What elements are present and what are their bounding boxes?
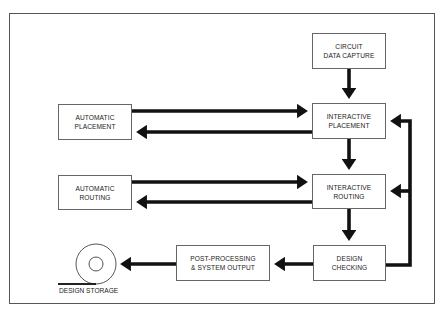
- node-label: INTERACTIVE ROUTING: [327, 183, 372, 201]
- post-processing-box: POST-PROCESSING & SYSTEM OUTPUT: [176, 245, 270, 281]
- node-label: CIRCUIT DATA CAPTURE: [324, 42, 375, 60]
- circuit-data-capture-box: CIRCUIT DATA CAPTURE: [312, 33, 386, 69]
- automatic-routing-box: AUTOMATIC ROUTING: [58, 175, 132, 210]
- arrow-checking-to-placement: [386, 121, 410, 265]
- interactive-placement-box: INTERACTIVE PLACEMENT: [312, 103, 386, 139]
- node-label: INTERACTIVE PLACEMENT: [327, 112, 372, 130]
- node-label: AUTOMATIC ROUTING: [75, 184, 114, 202]
- design-storage-label: DESIGN STORAGE: [59, 287, 118, 294]
- node-label: AUTOMATIC PLACEMENT: [74, 113, 115, 131]
- automatic-placement-box: AUTOMATIC PLACEMENT: [58, 104, 132, 140]
- interactive-routing-box: INTERACTIVE ROUTING: [312, 174, 386, 209]
- disc-icon: [58, 244, 116, 284]
- node-label: POST-PROCESSING & SYSTEM OUTPUT: [190, 254, 255, 272]
- design-checking-box: DESIGN CHECKING: [313, 245, 386, 281]
- node-label: DESIGN CHECKING: [332, 254, 368, 272]
